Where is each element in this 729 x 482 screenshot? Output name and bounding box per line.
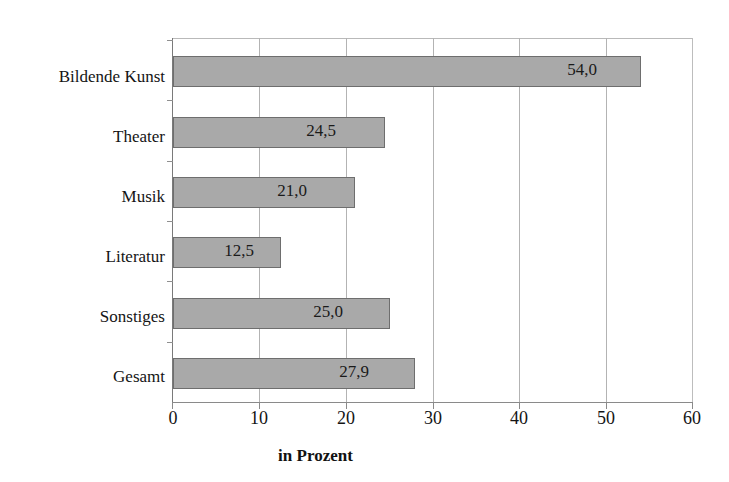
category-label-theater: Theater (0, 127, 165, 147)
y-tick-5 (167, 342, 173, 343)
category-label-bildende-kunst: Bildende Kunst (0, 67, 165, 87)
category-label-sonstiges: Sonstiges (0, 307, 165, 327)
x-tick-label-50: 50 (586, 408, 626, 429)
x-tick-label-20: 20 (326, 408, 366, 429)
x-tick-label-10: 10 (239, 408, 279, 429)
y-tick-2 (167, 161, 173, 162)
chart-title-clipped (0, 0, 729, 10)
bar-value-sonstiges: 25,0 (173, 302, 343, 322)
x-tick-label-60: 60 (672, 408, 712, 429)
gridline-20 (346, 38, 347, 402)
category-label-gesamt: Gesamt (0, 367, 165, 387)
bar-value-bildende-kunst: 54,0 (173, 60, 597, 80)
x-tick-label-30: 30 (413, 408, 453, 429)
gridline-50 (606, 38, 607, 402)
plot-area: 54,0 24,5 21,0 12,5 25,0 27,9 (173, 40, 693, 402)
y-tick-0 (167, 40, 173, 41)
bar-value-theater: 24,5 (173, 121, 336, 141)
bar-value-literatur: 12,5 (173, 241, 254, 261)
y-tick-4 (167, 281, 173, 282)
bar-chart-figure: Bildende Kunst Theater Musik Literatur S… (0, 0, 729, 482)
y-tick-1 (167, 100, 173, 101)
gridline-40 (519, 38, 520, 402)
x-axis-title: in Prozent (0, 446, 729, 466)
y-tick-3 (167, 221, 173, 222)
bar-value-musik: 21,0 (173, 181, 307, 201)
bar-value-gesamt: 27,9 (173, 362, 369, 382)
x-tick-label-0: 0 (153, 408, 193, 429)
category-axis-labels: Bildende Kunst Theater Musik Literatur S… (0, 40, 165, 402)
category-label-literatur: Literatur (0, 247, 165, 267)
x-tick-label-40: 40 (499, 408, 539, 429)
category-label-musik: Musik (0, 187, 165, 207)
gridline-10 (259, 38, 260, 402)
gridline-30 (433, 38, 434, 402)
plot-right-border (692, 38, 693, 402)
